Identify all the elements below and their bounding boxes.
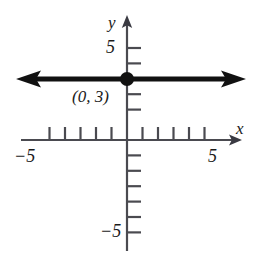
graph-figure: y x 5 −5 −5 5 (0, 3)	[0, 0, 262, 260]
x-axis-tick-label-negative-5: −5	[14, 147, 35, 165]
x-axis-group	[21, 127, 242, 145]
y-axis-group	[122, 15, 141, 251]
plotted-point-0-3	[120, 72, 134, 86]
coordinate-plane-svg	[0, 0, 262, 260]
y-axis-tick-label-5: 5	[106, 38, 115, 56]
point-coordinate-label: (0, 3)	[72, 88, 109, 105]
y-axis-tick-label-negative-5: −5	[100, 222, 121, 240]
x-axis-label: x	[236, 120, 244, 137]
x-axis-tick-label-5: 5	[208, 147, 217, 165]
y-axis-label: y	[108, 14, 116, 31]
